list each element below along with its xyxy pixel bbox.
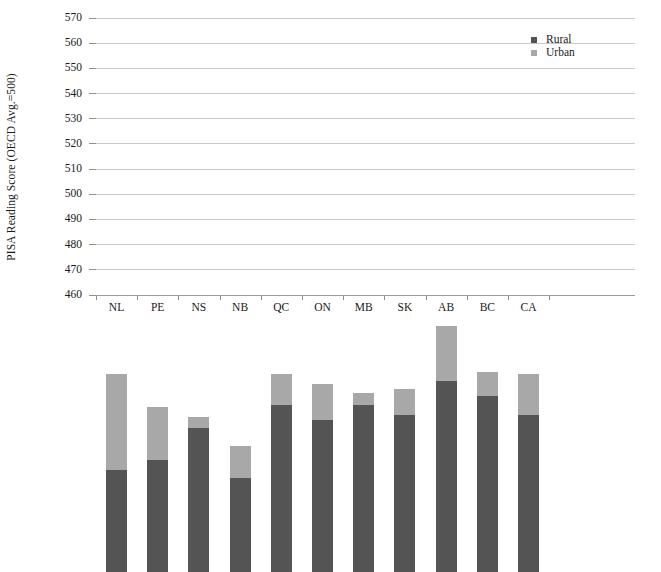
bar-segment-rural xyxy=(147,460,168,572)
x-tick-label-ns: NS xyxy=(178,302,220,314)
bar-segment-urban xyxy=(147,407,168,460)
bar-segment-rural xyxy=(436,381,457,572)
x-tick-mark xyxy=(467,295,468,300)
gridline xyxy=(96,269,635,270)
gridline xyxy=(96,118,635,119)
bar-segment-urban xyxy=(394,389,415,414)
legend-swatch-icon xyxy=(531,50,537,56)
legend-item-urban[interactable]: Urban xyxy=(531,46,641,59)
x-tick-label-nb: NB xyxy=(219,302,261,314)
bar-segment-urban xyxy=(518,374,539,414)
gridline xyxy=(96,68,635,69)
bar-segment-urban xyxy=(353,393,374,404)
x-tick-mark xyxy=(549,295,550,300)
bar-segment-urban xyxy=(106,374,127,470)
legend-swatch-icon xyxy=(531,37,537,43)
x-tick-mark xyxy=(343,295,344,300)
y-tick-mark xyxy=(89,18,96,19)
gridline xyxy=(96,169,635,170)
bar-segment-rural xyxy=(230,478,251,572)
y-axis-title: PISA Reading Score (OECD Avg.=500) xyxy=(0,0,22,334)
y-tick-label: 560 xyxy=(42,37,82,49)
bar-segment-urban xyxy=(312,384,333,419)
y-tick-mark xyxy=(89,143,96,144)
bar-segment-urban xyxy=(436,326,457,380)
gridline xyxy=(96,194,635,195)
bar-segment-urban xyxy=(230,446,251,477)
x-tick-label-pe: PE xyxy=(137,302,179,314)
y-tick-mark xyxy=(89,219,96,220)
bar-segment-urban xyxy=(477,372,498,396)
x-tick-label-on: ON xyxy=(302,302,344,314)
x-tick-mark xyxy=(384,295,385,300)
bar-segment-rural xyxy=(106,470,127,572)
y-tick-mark xyxy=(89,269,96,270)
x-tick-label-mb: MB xyxy=(343,302,385,314)
bar-segment-rural xyxy=(271,405,292,572)
y-tick-mark xyxy=(89,194,96,195)
y-tick-label: 470 xyxy=(42,264,82,276)
y-tick-label: 490 xyxy=(42,214,82,226)
y-tick-mark xyxy=(89,244,96,245)
y-tick-mark xyxy=(89,68,96,69)
bar-segment-urban xyxy=(188,417,209,428)
bar-segment-rural xyxy=(394,415,415,572)
y-tick-mark xyxy=(89,93,96,94)
x-tick-mark xyxy=(137,295,138,300)
bar-segment-rural xyxy=(353,405,374,572)
y-tick-label: 460 xyxy=(42,289,82,301)
bar-segment-rural xyxy=(188,428,209,572)
plot-area: 460470480490500510520530540550560570 NLP… xyxy=(96,18,635,295)
x-tick-label-sk: SK xyxy=(384,302,426,314)
y-tick-label: 520 xyxy=(42,138,82,150)
legend-item-rural[interactable]: Rural xyxy=(531,33,641,46)
y-tick-label: 530 xyxy=(42,113,82,125)
x-tick-mark xyxy=(261,295,262,300)
y-tick-label: 500 xyxy=(42,189,82,201)
legend-label: Rural xyxy=(546,34,572,46)
gridline xyxy=(96,93,635,94)
x-tick-label-nl: NL xyxy=(96,302,138,314)
bar-segment-rural xyxy=(312,420,333,572)
y-tick-mark xyxy=(89,295,96,296)
gridline xyxy=(96,18,635,19)
x-tick-mark xyxy=(220,295,221,300)
x-tick-label-ab: AB xyxy=(425,302,467,314)
x-tick-label-bc: BC xyxy=(466,302,508,314)
x-tick-mark xyxy=(96,295,97,300)
gridline xyxy=(96,244,635,245)
x-tick-label-ca: CA xyxy=(508,302,550,314)
legend-label: Urban xyxy=(546,47,575,59)
bar-segment-urban xyxy=(271,374,292,404)
gridline xyxy=(96,143,635,144)
y-tick-mark xyxy=(89,118,96,119)
x-tick-mark xyxy=(302,295,303,300)
x-axis-ticks: NLPENSNBQCONMBSKABBCCA xyxy=(96,295,635,301)
gridline xyxy=(96,219,635,220)
y-tick-label: 540 xyxy=(42,88,82,100)
y-tick-mark xyxy=(89,43,96,44)
x-tick-mark xyxy=(178,295,179,300)
x-tick-label-qc: QC xyxy=(260,302,302,314)
y-tick-mark xyxy=(89,169,96,170)
y-tick-label: 550 xyxy=(42,63,82,75)
x-tick-mark xyxy=(426,295,427,300)
y-tick-label: 510 xyxy=(42,163,82,175)
bar-segment-rural xyxy=(518,415,539,572)
y-tick-label: 480 xyxy=(42,239,82,251)
x-tick-mark xyxy=(508,295,509,300)
y-tick-label: 570 xyxy=(42,12,82,24)
chart-legend: RuralUrban xyxy=(531,33,641,59)
bar-segment-rural xyxy=(477,396,498,572)
